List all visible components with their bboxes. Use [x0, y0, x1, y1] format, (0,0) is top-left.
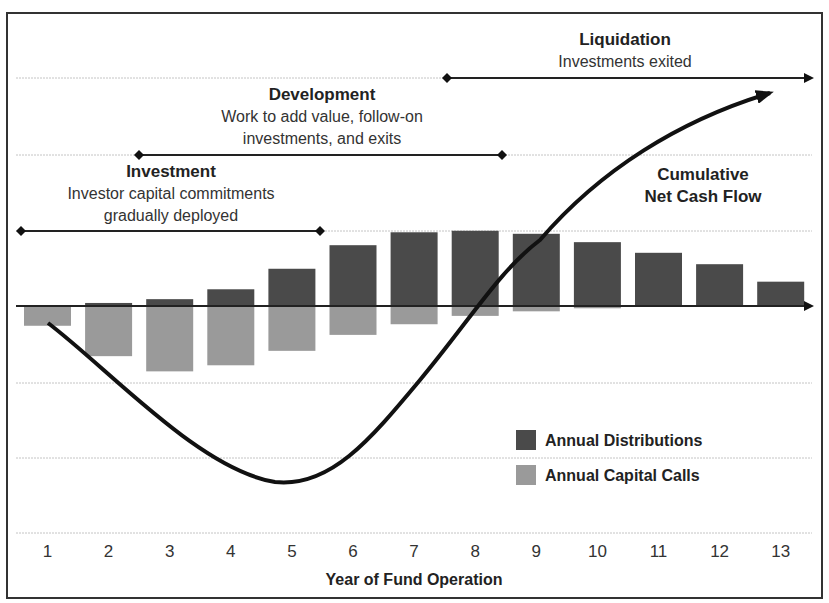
diamond-icon [134, 150, 144, 160]
x-axis-ticks: 12345678910111213 [43, 542, 790, 561]
x-tick-label: 1 [43, 542, 52, 561]
distribution-bar [757, 282, 804, 306]
x-tick-label: 13 [771, 542, 790, 561]
distribution-bar [391, 232, 438, 306]
phase-liquidation-span [442, 73, 812, 83]
phase-investment-span [16, 226, 325, 236]
curve-label-line2: Net Cash Flow [644, 187, 762, 206]
phase-development-line1: Work to add value, follow-on [221, 108, 423, 125]
diamond-icon [16, 226, 26, 236]
distribution-bar [696, 264, 743, 306]
phase-liquidation-title: Liquidation [579, 30, 671, 49]
capital-call-bar [24, 306, 71, 326]
capital-call-bar [207, 306, 254, 365]
distribution-bar [452, 231, 499, 306]
chart-canvas: Investment Investor capital commitments … [0, 0, 829, 603]
x-tick-label: 5 [287, 542, 296, 561]
x-tick-label: 10 [588, 542, 607, 561]
capital-call-bar [268, 306, 315, 351]
x-tick-label: 4 [226, 542, 235, 561]
x-tick-label: 8 [470, 542, 479, 561]
distribution-bar [146, 299, 193, 306]
distribution-bar [635, 253, 682, 306]
phase-investment-line1: Investor capital commitments [67, 185, 274, 202]
distribution-bar [207, 289, 254, 306]
x-tick-label: 11 [650, 542, 668, 561]
capital-call-bar [330, 306, 377, 335]
x-tick-label: 7 [409, 542, 418, 561]
diamond-icon [442, 73, 452, 83]
distribution-bar [574, 242, 621, 306]
x-axis-label: Year of Fund Operation [326, 571, 503, 588]
bars [24, 231, 804, 372]
legend-swatch-distributions [516, 430, 536, 450]
phase-liquidation-line1: Investments exited [558, 53, 691, 70]
distribution-bar [330, 245, 377, 306]
x-tick-label: 3 [165, 542, 174, 561]
capital-call-bar [85, 306, 132, 356]
phase-investment-line2: gradually deployed [104, 207, 238, 224]
legend-label-distributions: Annual Distributions [545, 432, 702, 449]
x-tick-label: 2 [104, 542, 113, 561]
x-tick-label: 6 [348, 542, 357, 561]
phase-development-span [134, 150, 507, 160]
x-tick-label: 9 [532, 542, 541, 561]
legend-label-capital-calls: Annual Capital Calls [545, 467, 700, 484]
diamond-icon [497, 150, 507, 160]
capital-call-bar [391, 306, 438, 324]
legend-swatch-capital-calls [516, 465, 536, 485]
phase-investment-title: Investment [126, 162, 216, 181]
x-tick-label: 12 [710, 542, 729, 561]
phase-development-title: Development [269, 85, 376, 104]
capital-call-bar [146, 306, 193, 371]
diamond-icon [315, 226, 325, 236]
distribution-bar [268, 269, 315, 306]
phase-development-line2: investments, and exits [243, 130, 401, 147]
curve-label-line1: Cumulative [657, 165, 749, 184]
